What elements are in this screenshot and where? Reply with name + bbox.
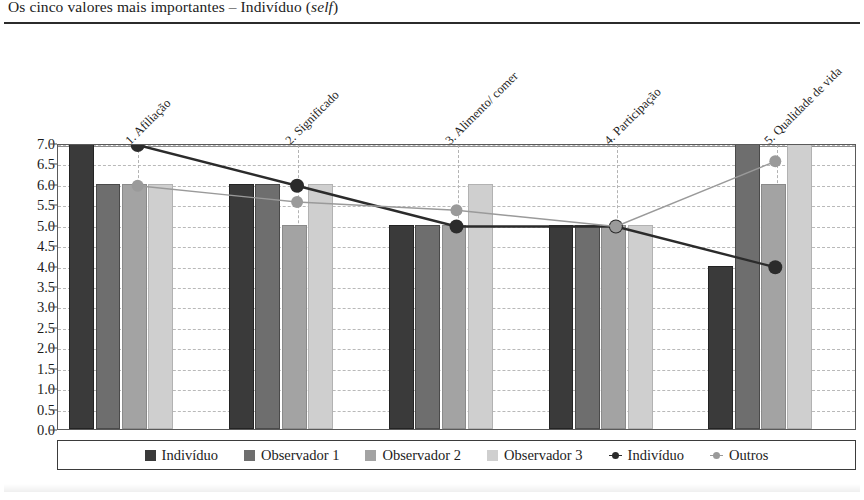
y-tick-mark xyxy=(50,327,57,328)
category-label-2: 2. Significado xyxy=(282,88,342,148)
legend-label: Observador 1 xyxy=(261,447,340,464)
y-tick-label: 7.0 xyxy=(0,136,55,153)
y-tick-mark xyxy=(50,164,57,165)
y-tick-label: 2.0 xyxy=(0,340,55,357)
legend-label: Indivíduo xyxy=(628,447,684,464)
category-label-1: 1. Afiliação xyxy=(122,96,174,148)
line-marker-s1-p3 xyxy=(450,220,464,234)
y-tick-label: 3.0 xyxy=(0,299,55,316)
legend-item-4[interactable]: Observador 3 xyxy=(487,447,583,464)
legend-item-2[interactable]: Observador 1 xyxy=(244,447,340,464)
y-tick-label: 2.5 xyxy=(0,319,55,336)
legend-swatch-icon xyxy=(365,450,376,461)
y-tick-label: 5.0 xyxy=(0,217,55,234)
chart-figure: 1. Afiliação2. Significado3. Alimento/ c… xyxy=(4,26,860,492)
legend-swatch-icon xyxy=(244,450,255,461)
line-series-overlay xyxy=(58,145,855,430)
category-label-3: 3. Alimento/ comer xyxy=(442,69,521,148)
line-marker-s2-p1 xyxy=(132,180,144,192)
y-tick-label: 5.5 xyxy=(0,197,55,214)
line-series-2 xyxy=(138,161,776,226)
category-axis-labels: 1. Afiliação2. Significado3. Alimento/ c… xyxy=(4,26,860,148)
y-tick-mark xyxy=(50,389,57,390)
legend-item-5[interactable]: Indivíduo xyxy=(609,447,684,464)
y-tick-label: 0.5 xyxy=(0,401,55,418)
legend-label: Indivíduo xyxy=(162,447,218,464)
line-marker-s2-p3 xyxy=(451,204,463,216)
legend-item-6[interactable]: Outros xyxy=(710,447,768,464)
y-tick-mark xyxy=(50,144,57,145)
figure-page: Os cinco valores mais importantes – Indi… xyxy=(0,0,864,500)
legend-label: Observador 3 xyxy=(504,447,583,464)
legend-label: Observador 2 xyxy=(382,447,461,464)
line-marker-s2-p2 xyxy=(291,196,303,208)
y-tick-label: 4.5 xyxy=(0,238,55,255)
y-tick-label: 6.0 xyxy=(0,176,55,193)
y-tick-mark xyxy=(50,266,57,267)
figure-title-main: Os cinco valores mais importantes – Indi… xyxy=(8,0,311,15)
legend-item-3[interactable]: Observador 2 xyxy=(365,447,461,464)
legend-swatch-icon xyxy=(145,450,156,461)
chart-legend: IndivíduoObservador 1Observador 2Observa… xyxy=(57,440,856,470)
y-tick-label: 6.5 xyxy=(0,156,55,173)
y-tick-label: 3.5 xyxy=(0,279,55,296)
category-label-4: 4. Participação xyxy=(602,85,665,148)
category-label-5: 5. Qualidade de vida xyxy=(761,64,845,148)
figure-title: Os cinco valores mais importantes – Indi… xyxy=(8,0,338,16)
line-marker-s1-p1 xyxy=(131,145,145,152)
figure-title-tail: ) xyxy=(333,0,338,15)
legend-label: Outros xyxy=(729,447,768,464)
y-tick-label: 1.5 xyxy=(0,360,55,377)
y-tick-mark xyxy=(50,184,57,185)
y-tick-mark xyxy=(50,348,57,349)
y-tick-mark xyxy=(50,409,57,410)
legend-line-marker-icon xyxy=(710,449,723,462)
y-tick-mark xyxy=(50,430,57,431)
legend-line-marker-icon xyxy=(609,449,622,462)
figure-title-emphasis: self xyxy=(311,0,333,15)
plot-area xyxy=(57,144,856,430)
y-tick-mark xyxy=(50,287,57,288)
y-tick-mark xyxy=(50,307,57,308)
y-tick-mark xyxy=(50,205,57,206)
line-marker-s2-p5 xyxy=(769,155,781,167)
y-tick-label: 1.0 xyxy=(0,381,55,398)
line-marker-s1-p5 xyxy=(768,260,782,274)
legend-item-1[interactable]: Indivíduo xyxy=(145,447,218,464)
title-rule xyxy=(4,22,860,24)
y-tick-label: 4.0 xyxy=(0,258,55,275)
y-tick-mark xyxy=(50,225,57,226)
y-tick-mark xyxy=(50,368,57,369)
legend-swatch-icon xyxy=(487,450,498,461)
page-edge-shading xyxy=(4,484,860,492)
line-marker-s2-p4 xyxy=(610,221,622,233)
line-marker-s1-p2 xyxy=(290,179,304,193)
y-tick-mark xyxy=(50,246,57,247)
y-tick-label: 0.0 xyxy=(0,422,55,439)
